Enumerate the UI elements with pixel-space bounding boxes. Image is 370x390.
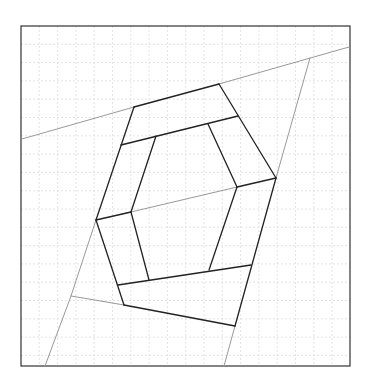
line-inner-top-right: [208, 124, 237, 187]
line-inner-right-lower: [209, 187, 237, 270]
line-inner-left-edge: [96, 212, 131, 220]
geometric-diagram: [0, 0, 370, 390]
line-outer-top-right: [219, 84, 276, 178]
grid: [21, 26, 350, 366]
line-outer-top: [134, 84, 219, 107]
line-top-right-extension: [219, 47, 349, 84]
diagram-canvas: [0, 0, 370, 390]
line-outer-left: [96, 107, 134, 220]
line-inner-bottom-band: [118, 265, 251, 285]
line-inner-right-edge: [237, 178, 276, 187]
line-inner-top-band: [121, 116, 238, 145]
line-outer-bottom: [124, 305, 235, 326]
line-right-lower-extension: [224, 326, 235, 366]
line-left-diagonal: [45, 220, 96, 366]
dark-figure-lines: [96, 84, 276, 326]
line-outer-right: [235, 178, 276, 326]
line-right-diagonal: [276, 58, 310, 178]
line-top-left-extension: [22, 107, 134, 139]
line-outer-bottom-left: [96, 220, 124, 305]
line-inner-top-left: [131, 136, 156, 212]
